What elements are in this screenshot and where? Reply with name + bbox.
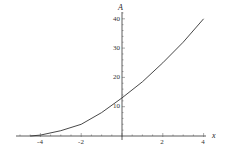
y-tick-label: 40 — [113, 15, 121, 23]
y-axis-label: A — [117, 3, 123, 12]
x-tick-label: 2 — [160, 138, 164, 146]
minor-ticks — [20, 13, 204, 137]
axes — [16, 12, 206, 140]
chart: -4 -2 2 4 10 20 30 40 x A — [0, 0, 232, 151]
x-tick-label: 4 — [201, 138, 205, 146]
y-tick-label: 20 — [113, 73, 121, 81]
tick-labels: -4 -2 2 4 10 20 30 40 — [37, 15, 205, 146]
x-tick-label: -4 — [37, 138, 43, 146]
y-tick-label: 30 — [113, 44, 121, 52]
x-axis-label: x — [211, 131, 216, 140]
x-tick-label: -2 — [78, 138, 84, 146]
